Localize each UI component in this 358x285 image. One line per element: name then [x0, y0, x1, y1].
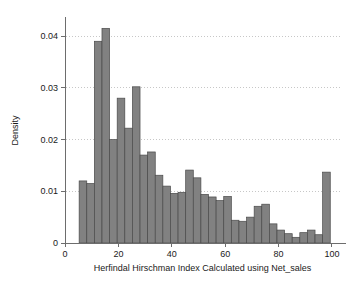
- histogram-bar: [87, 184, 95, 243]
- histogram-bar: [277, 230, 285, 243]
- histogram-bar: [117, 98, 125, 243]
- histogram-bar: [148, 152, 156, 243]
- histogram-bar: [300, 233, 308, 243]
- histogram-bar: [239, 221, 247, 243]
- histogram-plot: 020406080100 00.010.020.030.04 Herfindal…: [0, 0, 358, 285]
- histogram-bar: [315, 235, 323, 243]
- histogram-bar: [132, 87, 140, 243]
- histogram-bar: [79, 181, 87, 243]
- histogram-bar: [269, 224, 277, 243]
- histogram-bar: [224, 196, 232, 243]
- y-axis-title: Density: [10, 115, 20, 146]
- histogram-bar: [307, 230, 315, 243]
- y-tick-label: 0: [53, 238, 58, 248]
- histogram-bar: [292, 237, 300, 243]
- histogram-bar: [94, 41, 102, 243]
- histogram-bar: [193, 178, 201, 243]
- histogram-bar: [247, 217, 255, 243]
- histogram-bar: [201, 194, 209, 243]
- histogram-bar: [178, 192, 186, 243]
- histogram-bar: [209, 197, 217, 243]
- y-tick-label: 0.02: [40, 135, 58, 145]
- x-tick-label: 60: [220, 249, 230, 259]
- x-axis-title: Herfindal Hirschman Index Calculated usi…: [94, 263, 312, 273]
- y-tick-label: 0.03: [40, 83, 58, 93]
- x-tick-label: 0: [62, 249, 67, 259]
- histogram-bar: [285, 234, 293, 243]
- x-tick-label: 40: [167, 249, 177, 259]
- histogram-bar: [125, 128, 133, 243]
- histogram-bar: [110, 140, 118, 243]
- histogram-bar: [323, 172, 331, 243]
- x-tick-label: 100: [324, 249, 339, 259]
- y-tick-label: 0.04: [40, 31, 58, 41]
- histogram-figure: 020406080100 00.010.020.030.04 Herfindal…: [0, 0, 358, 285]
- histogram-bar: [262, 204, 270, 243]
- y-tick-label: 0.01: [40, 186, 58, 196]
- histogram-bar: [170, 193, 178, 243]
- histogram-bar: [163, 186, 171, 243]
- x-tick-label: 20: [113, 249, 123, 259]
- histogram-bar: [186, 170, 194, 243]
- x-tick-label: 80: [274, 249, 284, 259]
- histogram-bar: [140, 155, 148, 243]
- histogram-bar: [102, 28, 110, 243]
- histogram-bar: [155, 175, 163, 243]
- histogram-bar: [231, 220, 239, 243]
- histogram-bar: [254, 206, 262, 243]
- histogram-bar: [216, 201, 224, 243]
